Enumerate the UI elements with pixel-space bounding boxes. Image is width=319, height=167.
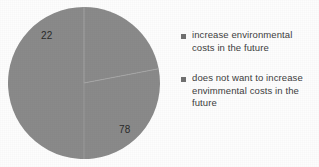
legend-item-label: increase environmental costs in the futu…	[192, 29, 317, 54]
legend-square-marker-icon	[181, 34, 186, 39]
pie-svg	[8, 7, 160, 159]
pie-chart-figure: 22 78 increase environmental costs in th…	[0, 0, 319, 167]
chart-plot-area: 22 78	[0, 0, 170, 167]
pie-data-label-78: 78	[119, 124, 131, 135]
legend-square-marker-icon	[181, 77, 186, 82]
pie-data-label-22: 22	[41, 30, 53, 41]
legend-item-increase[interactable]: increase environmental costs in the futu…	[181, 29, 317, 54]
chart-legend: increase environmental costs in the futu…	[181, 29, 317, 128]
legend-item-label: does not want to increase envimmental co…	[192, 72, 317, 110]
legend-item-does-not-want-increase[interactable]: does not want to increase envimmental co…	[181, 72, 317, 110]
pie-graphic	[8, 7, 160, 159]
